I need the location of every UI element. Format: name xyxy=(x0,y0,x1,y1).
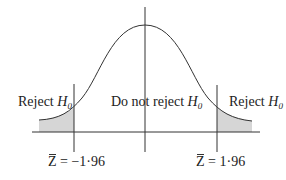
left-region-text: Reject xyxy=(18,94,57,109)
normal-distribution-diagram xyxy=(0,0,286,180)
right-region-sub: 0 xyxy=(278,101,283,111)
upper-critical-label: Z = 1·96 xyxy=(196,154,245,170)
center-region-sub: 0 xyxy=(198,101,203,111)
lower-z-relation: = xyxy=(57,154,72,169)
center-region-var: H xyxy=(188,94,198,109)
center-region-text: Do not reject xyxy=(111,94,188,109)
left-region-label: Reject H0 xyxy=(18,94,72,111)
left-region-sub: 0 xyxy=(67,101,72,111)
right-region-text: Reject xyxy=(229,94,268,109)
upper-z-symbol: Z xyxy=(196,154,205,170)
left-region-var: H xyxy=(57,94,67,109)
upper-z-value: 1·96 xyxy=(219,154,245,169)
lower-z-symbol: Z xyxy=(48,154,57,170)
upper-z-relation: = xyxy=(205,154,220,169)
center-region-label: Do not reject H0 xyxy=(111,94,202,111)
right-region-var: H xyxy=(268,94,278,109)
right-region-label: Reject H0 xyxy=(229,94,283,111)
lower-critical-label: Z = −1·96 xyxy=(48,154,105,170)
lower-z-value: −1·96 xyxy=(71,154,105,169)
